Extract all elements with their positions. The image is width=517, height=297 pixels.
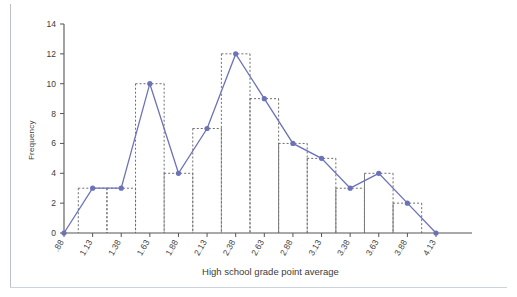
- y-tick-label: 2: [51, 198, 56, 208]
- data-point: [405, 201, 410, 206]
- x-tick-label: 1.88: [163, 238, 180, 258]
- data-point: [147, 81, 152, 86]
- x-tick-label: 2.63: [249, 238, 266, 258]
- data-point: [376, 171, 381, 176]
- y-tick-label: 8: [51, 109, 56, 119]
- x-tick-label: 1.63: [135, 238, 152, 258]
- axis-lines: [63, 24, 472, 233]
- figure-bottom-border: [10, 287, 507, 288]
- y-axis-ticks: 02468101214: [47, 19, 64, 238]
- data-point: [233, 51, 238, 56]
- y-axis-title-text: Frequency: [27, 146, 36, 160]
- chart-plot-area: 02468101214 .881.131.381.631.882.132.382…: [0, 0, 517, 297]
- x-tick-label: .88: [51, 238, 66, 253]
- x-tick-label: 3.13: [306, 238, 323, 258]
- histogram-bars: [78, 54, 421, 233]
- data-point: [90, 186, 95, 191]
- x-tick-label: 2.13: [192, 238, 209, 258]
- y-axis-title: Frequency: [13, 84, 22, 98]
- x-axis-ticks: .881.131.381.631.882.132.382.632.883.133…: [51, 233, 438, 257]
- data-point: [119, 186, 124, 191]
- data-point: [176, 171, 181, 176]
- y-tick-label: 0: [51, 228, 56, 238]
- y-tick-label: 6: [51, 138, 56, 148]
- x-axis-title: High school grade point average: [0, 266, 517, 277]
- x-axis-title-text: High school grade point average: [202, 266, 339, 277]
- x-tick-label: 3.63: [364, 238, 381, 258]
- data-point: [61, 230, 66, 235]
- x-tick-label: 2.38: [220, 238, 237, 258]
- x-tick-label: 3.88: [392, 238, 409, 258]
- x-tick-label: 1.13: [77, 238, 94, 258]
- x-tick-label: 4.13: [421, 238, 438, 258]
- y-tick-label: 10: [47, 79, 57, 89]
- x-tick-label: 2.88: [278, 238, 295, 258]
- data-point: [348, 186, 353, 191]
- x-tick-label: 1.38: [106, 238, 123, 258]
- figure-left-border: [10, 4, 11, 287]
- data-point: [204, 126, 209, 131]
- y-tick-label: 12: [47, 49, 57, 59]
- data-point: [262, 96, 267, 101]
- x-tick-label: 3.38: [335, 238, 352, 258]
- y-tick-label: 14: [47, 19, 57, 29]
- data-point: [319, 156, 324, 161]
- y-tick-label: 4: [51, 168, 56, 178]
- data-point: [290, 141, 295, 146]
- data-point: [433, 230, 438, 235]
- chart-figure: Frequency 02468101214 .881.131.381.631.8…: [0, 0, 517, 297]
